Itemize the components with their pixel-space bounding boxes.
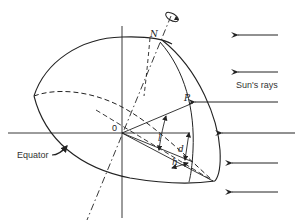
label-sun-rays: Sun's rays xyxy=(236,80,278,90)
label-north-pole: N xyxy=(149,29,159,39)
sun-rays xyxy=(195,35,295,192)
label-latitude: l xyxy=(158,133,161,143)
dashed-meridian xyxy=(144,38,150,96)
rotation-icon xyxy=(164,10,180,23)
label-point-p: P xyxy=(183,93,191,103)
label-hour-angle: h xyxy=(172,157,178,167)
declination-angle-arrow xyxy=(185,133,189,160)
equator-back-arc xyxy=(34,91,213,181)
origin-rays xyxy=(96,103,213,181)
label-declination: d xyxy=(178,144,184,154)
diagram-canvas: N P 0 l d h Equator Sun's rays xyxy=(0,0,300,224)
label-origin: 0 xyxy=(112,123,117,133)
label-equator: Equator xyxy=(17,150,49,160)
